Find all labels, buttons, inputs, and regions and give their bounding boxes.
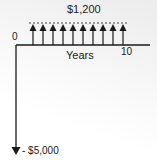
cash-flow-diagram: [0, 0, 157, 168]
inflow-arrows: [30, 24, 127, 45]
inflow-arrow-icon: [70, 24, 77, 45]
inflow-arrow-icon: [80, 24, 87, 45]
inflow-arrow-icon: [100, 24, 107, 45]
origin-label: 0: [12, 32, 18, 42]
inflow-arrow-icon: [30, 24, 37, 45]
inflow-arrow-icon: [120, 24, 127, 45]
inflow-arrow-icon: [40, 24, 47, 45]
axis-label: Years: [66, 50, 94, 61]
annuity-amount-label: $1,200: [67, 4, 101, 15]
inflow-arrow-icon: [90, 24, 97, 45]
end-year-label: 10: [121, 47, 132, 57]
inflow-arrow-icon: [60, 24, 67, 45]
inflow-arrow-icon: [110, 24, 117, 45]
outflow-amount-label: - $5,000: [22, 146, 59, 156]
inflow-arrow-icon: [50, 24, 57, 45]
outflow-arrowhead-icon: [12, 147, 21, 155]
